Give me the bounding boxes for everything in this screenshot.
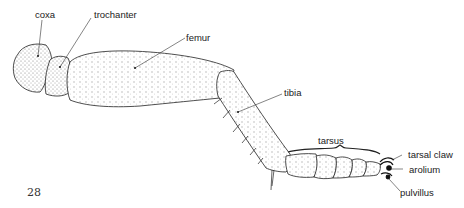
page-number: 28 <box>27 186 41 199</box>
label-tarsal-claw: tarsal claw <box>408 150 453 160</box>
leg-diagram: coxa trochanter femur tibia tarsus tarsa… <box>0 0 464 208</box>
label-pulvillus: pulvillus <box>400 188 434 198</box>
label-coxa: coxa <box>35 10 55 20</box>
leg-illustration <box>0 0 464 208</box>
tarsus-segments <box>286 154 381 179</box>
tibia-segment <box>217 71 291 173</box>
label-trochanter: trochanter <box>94 10 137 20</box>
label-tibia: tibia <box>284 88 301 98</box>
femur-segment <box>67 51 234 107</box>
label-arolium: arolium <box>409 165 440 175</box>
tarsus-bracket <box>288 145 380 154</box>
pretarsus <box>380 158 394 179</box>
label-tarsus: tarsus <box>318 136 344 146</box>
label-femur: femur <box>186 33 210 43</box>
